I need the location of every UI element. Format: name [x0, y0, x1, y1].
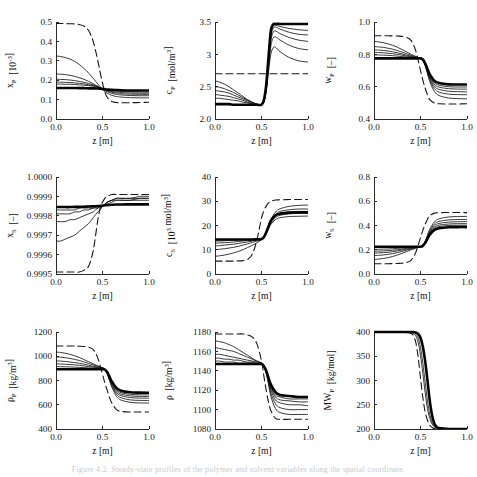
y-tick-label: 40 — [202, 172, 212, 182]
x-axis-label: z [m] — [251, 290, 272, 301]
y-tick-label: 0.5 — [41, 17, 53, 27]
y-tick-label: 400 — [356, 327, 370, 337]
panel-rho: 1080110011201140116011800.00.51.0z [m]ρ … — [159, 310, 318, 465]
y-axis-label: ρ [kg/m3] — [160, 361, 174, 400]
x-tick-label: 0.0 — [368, 277, 380, 287]
x-tick-label: 1.0 — [302, 277, 314, 287]
panel-wp: 0.40.60.81.00.00.51.0z [m]wP [–] — [318, 0, 477, 155]
series-converged-bundle — [215, 364, 308, 397]
x-tick-label: 0.5 — [97, 122, 109, 132]
y-tick-label: 0.3 — [41, 56, 53, 66]
x-axis-label: z [m] — [92, 445, 113, 456]
y-tick-label: 10 — [202, 245, 212, 255]
series-dashed-reference — [374, 36, 467, 104]
x-tick-label: 1.0 — [143, 122, 155, 132]
y-tick-label: 0.6 — [359, 196, 371, 206]
series-dashed-reference — [215, 334, 308, 420]
x-tick-label: 0.5 — [415, 432, 427, 442]
axis-spines — [215, 177, 308, 274]
y-axis-label: cP [mol/m3] — [162, 47, 176, 95]
series-converged-bundle — [56, 204, 149, 207]
x-tick-label: 0.0 — [50, 122, 62, 132]
series-dashed-reference — [215, 200, 308, 262]
panel-cp: 2.02.533.50.00.51.0z [m]cP [mol/m3] — [159, 0, 318, 155]
y-tick-label: 3.5 — [200, 17, 212, 27]
x-axis-label: z [m] — [410, 445, 431, 456]
y-tick-label: 1100 — [193, 405, 211, 415]
x-axis-label: z [m] — [251, 135, 272, 146]
y-tick-label: 1140 — [193, 366, 211, 376]
y-tick-label: 1160 — [193, 347, 211, 357]
y-tick-label: 0.9996 — [27, 250, 53, 260]
y-tick-label: 1180 — [193, 327, 211, 337]
y-axis-label: xP [10-3] — [3, 53, 17, 88]
y-tick-label: 0.9998 — [27, 211, 53, 221]
y-axis-label: xS [–] — [4, 213, 18, 238]
y-tick-label: 30 — [202, 196, 212, 206]
y-tick-label: 0.8 — [359, 172, 371, 182]
y-tick-label: 0.2 — [41, 75, 53, 85]
series-dashed-reference — [374, 213, 467, 264]
series-run-1 — [215, 341, 308, 415]
y-tick-label: 350 — [356, 351, 370, 361]
x-tick-label: 1.0 — [461, 432, 473, 442]
series-run-5 — [215, 361, 308, 399]
y-tick-label: 3 — [206, 50, 211, 60]
x-tick-label: 1.0 — [143, 432, 155, 442]
x-tick-label: 0.5 — [256, 432, 268, 442]
series-run-3 — [215, 31, 308, 105]
panel-xp: 0.00.10.20.30.40.50.00.51.0z [m]xP [10-3… — [0, 0, 159, 155]
y-tick-label: 0.9999 — [27, 192, 53, 202]
y-tick-label: 0.4 — [41, 37, 53, 47]
y-tick-label: 1120 — [193, 385, 211, 395]
y-tick-label: 0.4 — [359, 221, 371, 231]
x-tick-label: 1.0 — [302, 122, 314, 132]
x-tick-label: 1.0 — [143, 277, 155, 287]
x-tick-label: 1.0 — [302, 432, 314, 442]
panel-xs: 0.99950.99960.99970.99980.99991.00000.00… — [0, 155, 159, 310]
axis-spines — [56, 22, 149, 119]
y-axis-label: MWP [kg/mol] — [322, 351, 336, 411]
x-axis-label: z [m] — [410, 135, 431, 146]
x-tick-label: 0.0 — [368, 122, 380, 132]
x-axis-label: z [m] — [251, 445, 272, 456]
series-run-2 — [374, 332, 467, 429]
y-axis-label: wP [–] — [322, 57, 336, 84]
y-tick-label: 2.5 — [200, 82, 212, 92]
y-tick-label: 250 — [356, 400, 370, 410]
y-tick-label: 1.0000 — [27, 172, 53, 182]
panel-cs: 0102030400.00.51.0z [m]cS [103 mol/m3] — [159, 155, 318, 310]
x-tick-label: 1.0 — [461, 122, 473, 132]
panel-rhop: 400600800100012000.00.51.0z [m]ρP [kg/m3… — [0, 310, 159, 465]
y-tick-label: 300 — [356, 376, 370, 386]
series-run-2 — [56, 357, 149, 401]
axis-spines — [56, 332, 149, 429]
figure-grid: 0.00.10.20.30.40.50.00.51.0z [m]xP [10-3… — [0, 0, 477, 477]
series-run-1 — [215, 216, 308, 256]
x-tick-label: 0.0 — [50, 432, 62, 442]
y-tick-label: 0.1 — [41, 95, 53, 105]
panel-ws: 0.00.20.40.60.80.00.51.0z [m]wS [–] — [318, 155, 477, 310]
x-tick-label: 0.5 — [97, 432, 109, 442]
y-tick-label: 20 — [202, 221, 212, 231]
x-tick-label: 0.0 — [209, 277, 221, 287]
y-tick-label: 0.9995 — [27, 269, 53, 279]
x-tick-label: 0.0 — [209, 122, 221, 132]
x-axis-label: z [m] — [410, 290, 431, 301]
y-tick-label: 0.8 — [359, 50, 371, 60]
y-axis-label: ρP [kg/m3] — [3, 359, 17, 402]
y-tick-label: 1000 — [34, 351, 53, 361]
x-tick-label: 0.0 — [209, 432, 221, 442]
x-tick-label: 0.5 — [97, 277, 109, 287]
x-axis-label: z [m] — [92, 290, 113, 301]
figure-caption: Figure 4.2: Steady-state profiles of the… — [0, 462, 477, 477]
y-tick-label: 0.2 — [359, 245, 371, 255]
y-tick-label: 600 — [38, 400, 52, 410]
series-run-1 — [56, 352, 149, 403]
y-axis-label: wS [–] — [322, 212, 336, 239]
series-run-5 — [56, 367, 149, 395]
panel-mwp: 2002503003504000.00.51.0z [m]MWP [kg/mol… — [318, 310, 477, 465]
series-dashed-reference — [56, 346, 149, 412]
series-run-5 — [215, 205, 308, 241]
x-tick-label: 0.0 — [368, 432, 380, 442]
